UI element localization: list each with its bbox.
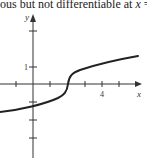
y-axis-label: y <box>24 12 29 22</box>
x-tick-label-4: 4 <box>100 90 104 99</box>
function-graph: 4 x y 1 <box>0 0 147 158</box>
x-axis-arrow-icon <box>135 81 142 87</box>
x-axis-label: x <box>136 89 141 99</box>
x-axis: 4 x <box>0 81 142 99</box>
y-axis: y 1 <box>24 12 37 158</box>
y-tick-label-1: 1 <box>24 63 28 72</box>
y-axis-arrow-icon <box>30 14 36 22</box>
